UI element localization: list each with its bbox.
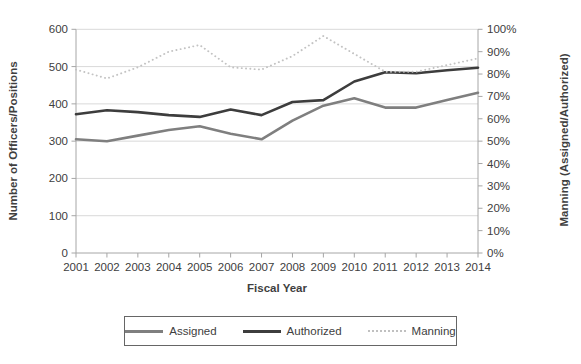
legend-label: Authorized bbox=[287, 325, 342, 337]
x-axis-title: Fiscal Year bbox=[247, 282, 307, 294]
right-axis-title: Manning (Assigned/Authorized) bbox=[558, 53, 570, 226]
right-tick-label: 0% bbox=[487, 247, 504, 259]
left-tick-label: 600 bbox=[49, 23, 68, 35]
legend-label: Manning bbox=[412, 325, 456, 337]
right-tick-label: 10% bbox=[487, 225, 510, 237]
x-tick-label: 2011 bbox=[373, 261, 398, 273]
legend: AssignedAuthorizedManning bbox=[124, 316, 457, 346]
x-tick-label: 2001 bbox=[63, 261, 89, 273]
x-tick-label: 2006 bbox=[218, 261, 244, 273]
x-tick-label: 2014 bbox=[465, 261, 491, 273]
right-tick-label: 40% bbox=[487, 158, 510, 170]
x-tick-label: 2013 bbox=[434, 261, 460, 273]
legend-swatch-authorized bbox=[243, 330, 281, 333]
x-tick-label: 2005 bbox=[187, 261, 213, 273]
legend-swatch-assigned bbox=[125, 330, 163, 333]
manning-chart-figure: 01002003004005006000%10%20%30%40%50%60%7… bbox=[0, 0, 581, 364]
series-line-authorized bbox=[76, 68, 478, 117]
left-tick-label: 400 bbox=[49, 98, 68, 110]
plot-area: 01002003004005006000%10%20%30%40%50%60%7… bbox=[0, 0, 581, 364]
right-tick-label: 60% bbox=[487, 113, 510, 125]
left-tick-label: 500 bbox=[49, 61, 68, 73]
right-tick-label: 30% bbox=[487, 180, 510, 192]
series-line-assigned bbox=[76, 93, 478, 142]
left-axis-title: Number of Officers/Positions bbox=[7, 61, 19, 220]
x-tick-label: 2012 bbox=[403, 261, 429, 273]
legend-item-assigned: Assigned bbox=[125, 325, 216, 337]
left-tick-label: 200 bbox=[49, 172, 68, 184]
x-tick-label: 2004 bbox=[156, 261, 182, 273]
left-tick-label: 0 bbox=[62, 247, 68, 259]
legend-label: Assigned bbox=[169, 325, 216, 337]
right-tick-label: 90% bbox=[487, 46, 510, 58]
legend-swatch-manning bbox=[368, 330, 406, 332]
x-tick-label: 2002 bbox=[94, 261, 120, 273]
x-tick-label: 2008 bbox=[280, 261, 306, 273]
left-tick-label: 100 bbox=[49, 210, 68, 222]
x-tick-label: 2010 bbox=[342, 261, 368, 273]
right-tick-label: 80% bbox=[487, 68, 510, 80]
x-tick-label: 2007 bbox=[249, 261, 275, 273]
right-tick-label: 100% bbox=[487, 23, 516, 35]
right-tick-label: 70% bbox=[487, 90, 510, 102]
x-tick-label: 2009 bbox=[311, 261, 337, 273]
right-tick-label: 20% bbox=[487, 202, 510, 214]
legend-item-authorized: Authorized bbox=[243, 325, 342, 337]
x-tick-label: 2003 bbox=[125, 261, 151, 273]
legend-item-manning: Manning bbox=[368, 325, 456, 337]
right-tick-label: 50% bbox=[487, 135, 510, 147]
left-tick-label: 300 bbox=[49, 135, 68, 147]
